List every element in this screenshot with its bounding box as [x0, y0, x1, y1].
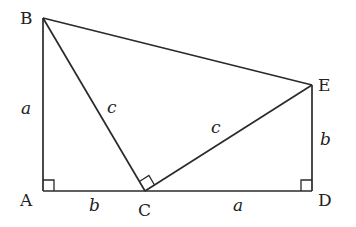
- segment-be: [43, 18, 312, 85]
- side-label-ed: b: [320, 129, 331, 149]
- right-angle-mark-c: [139, 176, 154, 186]
- side-label-ab: a: [21, 98, 31, 118]
- vertex-label-b: B: [20, 8, 33, 28]
- side-label-cd: a: [233, 195, 243, 215]
- trapezoid-diagram: B A C D E a c c b b a: [0, 0, 356, 227]
- segment-bc: [43, 18, 145, 191]
- vertex-label-e: E: [318, 75, 330, 95]
- side-label-ce: c: [211, 117, 221, 137]
- right-angle-mark-a: [43, 180, 54, 191]
- vertex-label-c: C: [138, 200, 151, 220]
- vertex-label-d: D: [318, 190, 332, 210]
- side-label-bc: c: [107, 97, 117, 117]
- side-label-ac: b: [89, 195, 100, 215]
- vertex-label-a: A: [19, 190, 33, 210]
- segment-ce: [145, 85, 312, 191]
- right-angle-mark-d: [301, 180, 312, 191]
